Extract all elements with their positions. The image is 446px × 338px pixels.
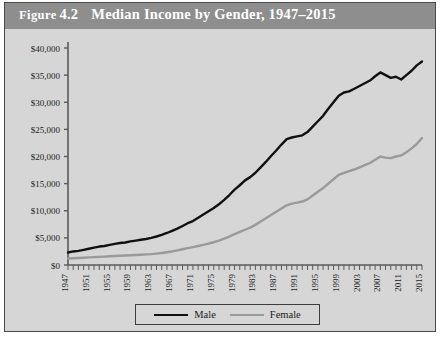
plot-area: $0$5,000$10,000$15,000$20,000$25,000$30,… [5, 29, 435, 333]
legend-item-female: Female [230, 309, 301, 320]
x-tick-label: 2011 [393, 274, 403, 292]
x-tick-label: 2015 [414, 274, 424, 293]
figure-label: Figure [19, 8, 57, 22]
y-tick-label: $40,000 [31, 44, 61, 54]
x-tick-label: 2003 [352, 274, 362, 293]
x-tick-label: 2007 [372, 274, 382, 293]
y-tick-label: $30,000 [31, 98, 61, 108]
x-tick-label: 1987 [268, 274, 278, 293]
y-tick-label: $0 [51, 261, 61, 271]
figure-title-bar: Figure4.2Median Income by Gender, 1947–2… [5, 3, 435, 29]
legend-swatch-male [154, 314, 188, 316]
legend-swatch-female [230, 314, 264, 316]
figure-title: Figure4.2Median Income by Gender, 1947–2… [19, 6, 336, 23]
figure-number: 4.2 [60, 6, 79, 22]
x-tick-label: 1975 [206, 274, 216, 293]
series-line-male [68, 62, 422, 253]
x-tick-label: 1959 [122, 274, 132, 293]
y-tick-label: $25,000 [31, 125, 61, 135]
x-tick-label: 1983 [247, 274, 257, 293]
y-tick-label: $15,000 [31, 179, 61, 189]
x-tick-label: 1963 [143, 274, 153, 293]
figure-title-text: Median Income by Gender, 1947–2015 [91, 6, 335, 22]
x-tick-label: 1951 [81, 274, 91, 292]
x-tick-label: 1955 [102, 274, 112, 293]
line-chart: $0$5,000$10,000$15,000$20,000$25,000$30,… [5, 29, 437, 333]
y-tick-label: $5,000 [35, 233, 60, 243]
figure-panel: Figure4.2Median Income by Gender, 1947–2… [4, 2, 436, 332]
x-tick-label: 1991 [289, 274, 299, 292]
y-tick-label: $35,000 [31, 71, 61, 81]
x-tick-label: 1979 [227, 274, 237, 293]
x-tick-label: 1999 [331, 274, 341, 293]
legend-label-female: Female [270, 309, 301, 320]
chart-legend: Male Female [135, 304, 320, 325]
x-tick-label: 1967 [164, 274, 174, 293]
x-tick-label: 1971 [185, 274, 195, 292]
legend-item-male: Male [154, 309, 216, 320]
y-tick-label: $10,000 [31, 206, 61, 216]
y-tick-label: $20,000 [31, 152, 61, 162]
x-tick-label: 1995 [310, 274, 320, 293]
x-tick-label: 1947 [60, 274, 70, 293]
legend-label-male: Male [194, 309, 216, 320]
series-line-female [68, 138, 422, 258]
